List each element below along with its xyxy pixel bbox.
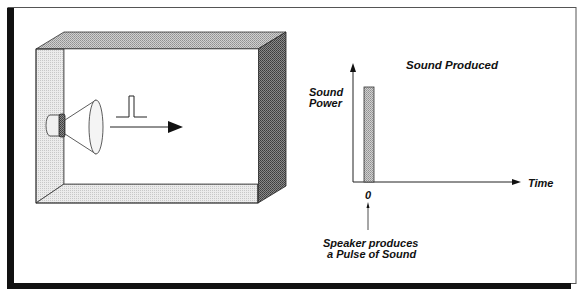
- room-floor: [36, 184, 258, 203]
- graph-axes: [350, 63, 521, 185]
- graph-title: Sound Produced: [406, 59, 498, 71]
- room-right-wall: [258, 32, 286, 203]
- room-top-wall: [36, 32, 286, 49]
- diagram-canvas: [0, 0, 583, 295]
- x-axis-tick-zero: 0: [365, 189, 371, 201]
- annotation-line2: a Pulse of Sound: [327, 248, 416, 260]
- y-axis-arrow-icon: [350, 63, 356, 72]
- x-axis-arrow-icon: [512, 179, 521, 185]
- sound-pulse-bar: [364, 87, 374, 182]
- figure: Sound Produced Sound Power Time 0 Speake…: [0, 0, 583, 295]
- x-axis-label: Time: [528, 177, 553, 189]
- annotation-arrow-icon: [367, 202, 370, 230]
- y-axis-label-line2: Power: [309, 97, 342, 109]
